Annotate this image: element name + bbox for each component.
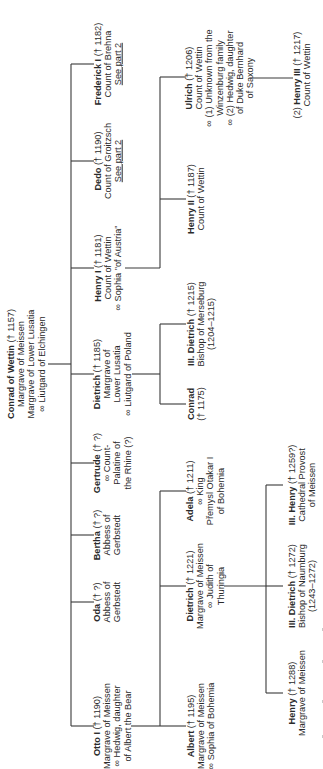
person-dates: († 1190) xyxy=(92,696,102,730)
person-spouse: ∞ (2) Hedwig, daughter xyxy=(225,29,235,126)
person-name: Adela xyxy=(185,497,195,522)
person-title: of Meissen xyxy=(307,445,317,526)
see-part-2-link[interactable]: See part 2 xyxy=(113,23,123,106)
person-spouse: Thuringia xyxy=(215,543,225,629)
person-name: Gertrude xyxy=(92,454,102,493)
person-dates: († 1206) xyxy=(184,47,194,81)
person-spouse: ∞ (1) Unknown from the xyxy=(205,29,215,126)
person-dates: († 1175) xyxy=(196,387,206,421)
person-title: Bishop of Naumburg xyxy=(297,544,307,628)
person-title: Lower Lusatia xyxy=(112,332,122,416)
person-name: Frederick I xyxy=(93,59,103,105)
person-title: Count of Groitzsch xyxy=(103,123,113,199)
person-title: Cathedral Provost xyxy=(297,445,307,526)
person-dates: († 1187) xyxy=(186,164,196,198)
person-name: Dedo xyxy=(93,168,103,191)
person-dates: († 1157) xyxy=(6,309,16,343)
person-spouse: ∞ King xyxy=(195,457,205,525)
person-dates: († 1221) xyxy=(185,550,195,584)
person-title: Gerbstedt xyxy=(112,582,122,623)
person-title: (1204–1215) xyxy=(206,282,216,367)
person-title: Margrave of Meissen xyxy=(195,543,205,629)
person-spouse: ∞ Sophia of Bohemia xyxy=(206,683,216,769)
person-name: Dietrich xyxy=(92,375,102,409)
person-name: Oda xyxy=(92,604,102,622)
person-dates: († ?) xyxy=(92,433,102,452)
person-title: Bishop of Merseburg xyxy=(196,282,206,367)
person-title: Abbess of xyxy=(102,582,112,623)
person-title: (1243–1272) xyxy=(307,544,317,628)
person-name: Henry I xyxy=(93,270,103,301)
person-spouse: ∞ Sophia "of Austria" xyxy=(113,225,123,310)
person-title: Count of Wettin xyxy=(103,225,113,310)
person-title: Gerbstedt xyxy=(112,510,122,561)
person-dates: († 1272) xyxy=(287,544,297,578)
person-title: Margrave of xyxy=(102,332,112,416)
person-title: Margrave of Meissen xyxy=(196,683,206,769)
person-title: Margrave of Lower Lusatia xyxy=(26,309,36,419)
person-title: Margrave of Meissen xyxy=(16,309,26,419)
person-name: Bertha xyxy=(92,531,102,560)
person-dates: († 1288) xyxy=(287,662,297,696)
person-title: Abbess of xyxy=(102,510,112,561)
person-dates: († 1211) xyxy=(185,460,195,494)
person-dates: († 1182) xyxy=(93,23,103,57)
person-spouse: of Duke Bernhard xyxy=(235,29,245,126)
person-name: Henry III xyxy=(292,68,302,104)
person-title: Count of Brehna xyxy=(103,23,113,106)
person-spouse: ∞ Count- xyxy=(102,433,112,493)
person-spouse: ∞ Liutgard of Poland xyxy=(122,332,132,416)
see-part-2-link[interactable]: See part 2 xyxy=(113,123,123,199)
person-spouse: Přemysl Otakar I xyxy=(205,457,215,525)
person-title: Count of Wettin xyxy=(194,29,204,126)
person-spouse: the Rhine (?) xyxy=(122,433,132,493)
person-name: Henry xyxy=(287,698,297,724)
person-name: Dietrich xyxy=(185,587,195,621)
person-dates: († 1217) xyxy=(292,32,302,66)
person-name: Henry II xyxy=(186,200,196,234)
person-title: Margrave of Meissen xyxy=(102,683,112,769)
person-name: III. Dietrich xyxy=(186,319,196,366)
person-name: Albert xyxy=(186,731,196,758)
person-title: Count of Wettin xyxy=(302,32,312,119)
person-name: Otto I xyxy=(92,732,102,756)
person-name: III. Dietrich xyxy=(287,581,297,628)
person-dates: († 1195) xyxy=(186,695,196,729)
person-title: Count of Wettin xyxy=(196,164,206,234)
person-dates: († ?) xyxy=(92,510,102,529)
marriage-index: (2) xyxy=(292,107,302,118)
person-dates: († ?) xyxy=(92,582,102,601)
person-dates: († 1190) xyxy=(93,131,103,165)
person-dates: († 1181) xyxy=(93,234,103,268)
person-dates: († 1259?) xyxy=(287,445,297,484)
person-dates: († 1185) xyxy=(92,339,102,373)
person-spouse: of Bohemia xyxy=(215,457,225,525)
person-spouse: of Saxony xyxy=(246,29,256,126)
person-name: Conrad xyxy=(186,387,196,421)
person-spouse: of Albert the Bear xyxy=(122,683,132,769)
person-title: Margrave of Meissen xyxy=(297,650,307,736)
person-name: Conrad of Wettin xyxy=(6,345,16,419)
person-name: III. Henry xyxy=(287,487,297,526)
person-spouse: ∞ Judith of xyxy=(205,543,215,629)
person-spouse: ∞ Liutgard of Elchingen xyxy=(36,309,46,419)
person-spouse: ∞ Hedwig, daughter xyxy=(112,683,122,769)
person-dates: († 1215) xyxy=(186,282,196,316)
person-spouse: Palatine of xyxy=(112,433,122,493)
person-spouse: Winzenburg family xyxy=(215,29,225,126)
person-name: Ulrich xyxy=(184,83,194,109)
